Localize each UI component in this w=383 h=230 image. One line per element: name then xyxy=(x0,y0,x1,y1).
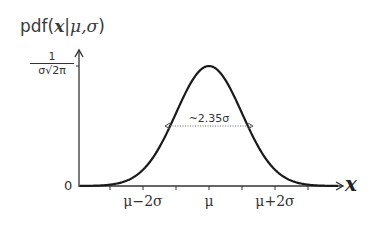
x-axis-label: x xyxy=(345,172,357,196)
y-peak-label: 1 σ√2π xyxy=(30,51,74,76)
y-zero-label: 0 xyxy=(64,178,72,193)
x-tick-label-mu-plus-2sigma: μ+2σ xyxy=(255,193,294,209)
y-axis-title: pdf(x|μ,σ) xyxy=(20,16,105,36)
x-tick-label-mu: μ xyxy=(204,193,213,209)
x-tick-label-mu-minus-2sigma: μ−2σ xyxy=(123,193,162,209)
gaussian-curve xyxy=(80,66,338,186)
fwhm-annotation: ~2.35σ xyxy=(189,112,230,125)
